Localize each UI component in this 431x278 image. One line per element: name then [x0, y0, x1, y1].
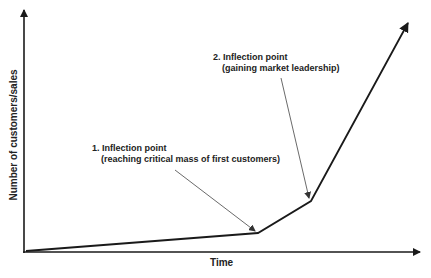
chart-canvas [0, 0, 431, 278]
annotation-1-arrow [175, 170, 255, 231]
y-axis-label: Number of customers/sales [8, 69, 19, 200]
annotation-2-label: 2. Inflection point (gaining market lead… [213, 52, 340, 74]
annotation-2-arrow [281, 78, 309, 198]
annotation-2-subtitle: (gaining market leadership) [213, 63, 340, 74]
annotation-1-label: 1. Inflection point (reaching critical m… [92, 143, 280, 165]
annotation-1-subtitle: (reaching critical mass of first custome… [92, 154, 280, 165]
x-axis-label: Time [210, 257, 233, 268]
annotation-1-title: 1. Inflection point [92, 143, 167, 153]
annotation-2-title: 2. Inflection point [213, 52, 288, 62]
